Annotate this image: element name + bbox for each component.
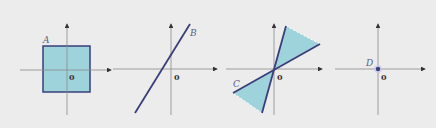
point-d xyxy=(376,67,380,71)
panel-b: B 0 xyxy=(113,24,217,115)
label-a: A xyxy=(42,35,50,45)
panel-a: A 0 xyxy=(20,24,111,115)
label-d: D xyxy=(365,58,373,68)
origin-label: 0 xyxy=(277,72,283,82)
convex-sets-figure: A 0 B 0 C 0 D 0 xyxy=(0,0,443,128)
square-region xyxy=(43,46,90,92)
cone-edge-shallow xyxy=(233,44,320,93)
panel-d: D 0 xyxy=(335,24,425,115)
origin-label: 0 xyxy=(381,72,387,82)
label-c: C xyxy=(233,79,240,89)
origin-label: 0 xyxy=(69,72,75,82)
panel-c: C 0 xyxy=(226,24,322,115)
label-b: B xyxy=(189,28,197,38)
line-b xyxy=(135,24,190,113)
origin-label: 0 xyxy=(174,72,180,82)
